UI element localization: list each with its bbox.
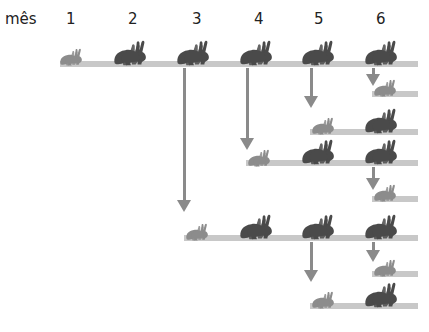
- month-label-5: 5: [314, 10, 324, 28]
- adult-rabbit-pair-icon: [362, 38, 400, 68]
- young-rabbit-pair-icon: [246, 148, 272, 168]
- month-label-3: 3: [192, 10, 202, 28]
- month-label-4: 4: [254, 10, 264, 28]
- birth-arrow-line-m5-bottom: [310, 242, 313, 272]
- adult-rabbit-pair-icon: [237, 212, 275, 242]
- birth-arrow-head-m3: [177, 200, 191, 212]
- young-rabbit-pair-icon: [372, 183, 398, 203]
- adult-rabbit-pair-icon: [299, 137, 337, 167]
- month-axis-label: mês: [5, 10, 37, 28]
- adult-rabbit-pair-icon: [299, 212, 337, 242]
- adult-rabbit-pair-icon: [299, 38, 337, 68]
- young-rabbit-pair-icon: [58, 47, 84, 67]
- month-label-1: 1: [66, 10, 76, 28]
- young-rabbit-pair-icon: [184, 222, 210, 242]
- adult-rabbit-pair-icon: [362, 280, 400, 310]
- adult-rabbit-pair-icon: [362, 106, 400, 136]
- birth-arrow-head-m5-top: [304, 96, 318, 108]
- young-rabbit-pair-icon: [310, 290, 336, 310]
- month-label-2: 2: [128, 10, 138, 28]
- birth-arrow-line-m5-top: [310, 68, 313, 98]
- young-rabbit-pair-icon: [372, 78, 398, 98]
- adult-rabbit-pair-icon: [174, 38, 212, 68]
- young-rabbit-pair-icon: [372, 258, 398, 278]
- birth-arrow-line-m4: [246, 68, 249, 142]
- adult-rabbit-pair-icon: [111, 38, 149, 68]
- adult-rabbit-pair-icon: [362, 137, 400, 167]
- young-rabbit-pair-icon: [310, 116, 336, 136]
- adult-rabbit-pair-icon: [362, 212, 400, 242]
- birth-arrow-head-m5-bottom: [304, 270, 318, 282]
- adult-rabbit-pair-icon: [237, 38, 275, 68]
- birth-arrow-line-m3: [183, 68, 186, 203]
- month-label-6: 6: [376, 10, 386, 28]
